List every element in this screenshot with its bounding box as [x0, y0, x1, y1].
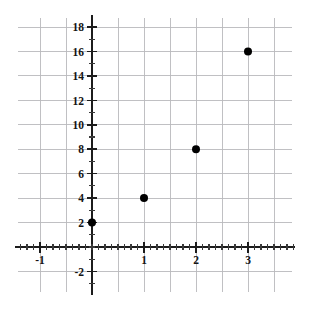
y-tick-label: 10 — [73, 119, 85, 131]
y-tick-label: 6 — [78, 168, 84, 180]
y-tick-label: 14 — [73, 70, 85, 82]
scatter-plot-figure: -224681012141618 -1123 — [0, 0, 310, 310]
data-point — [192, 145, 200, 153]
data-point — [140, 194, 148, 202]
x-tick-label: -1 — [35, 254, 45, 266]
y-tick-label: 18 — [73, 21, 85, 33]
y-tick-label: 16 — [73, 46, 85, 58]
y-tick-label: -2 — [74, 266, 84, 278]
data-point — [244, 47, 252, 55]
plot-background — [0, 0, 310, 310]
coordinate-plane: -224681012141618 -1123 — [0, 0, 310, 310]
y-tick-label: 2 — [78, 217, 84, 229]
x-tick-label: 3 — [245, 254, 251, 266]
data-point — [88, 219, 96, 227]
x-tick-label: 1 — [141, 254, 147, 266]
y-tick-label: 4 — [78, 192, 84, 204]
x-tick-label: 2 — [193, 254, 199, 266]
y-tick-label: 8 — [78, 143, 84, 155]
y-tick-label: 12 — [73, 95, 85, 107]
